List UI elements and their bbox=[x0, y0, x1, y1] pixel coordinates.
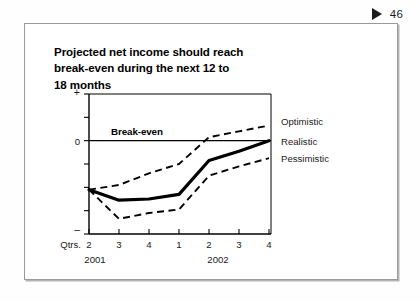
series-line-pessimistic bbox=[89, 158, 269, 219]
y-label-plus: + bbox=[74, 86, 80, 98]
y-axis-ticks bbox=[84, 94, 89, 234]
x-tick-label: 4 bbox=[266, 239, 272, 250]
y-label-zero: 0 bbox=[75, 136, 80, 147]
x-axis-ticks bbox=[89, 229, 269, 234]
legend-label-realistic: Realistic bbox=[281, 136, 317, 147]
series-line-realistic bbox=[89, 141, 269, 200]
x-tick-label: 2 bbox=[206, 239, 211, 250]
break-even-annotation: Break-even bbox=[111, 126, 163, 137]
x-year-label: 2002 bbox=[207, 254, 228, 265]
title-line-2: break-even during the next 12 to bbox=[54, 60, 354, 76]
x-year-label: 2001 bbox=[84, 254, 105, 265]
x-tick-label: 4 bbox=[146, 239, 152, 250]
page-marker: 46 bbox=[372, 5, 403, 23]
legend-label-pessimistic: Pessimistic bbox=[281, 153, 329, 164]
data-series-group bbox=[89, 126, 269, 219]
x-axis-prefix-label: Qtrs. bbox=[60, 239, 81, 250]
page-number: 46 bbox=[390, 8, 403, 20]
x-tick-label: 3 bbox=[116, 239, 121, 250]
slide-canvas: 46 Projected net income should reach bre… bbox=[0, 0, 420, 302]
slide-card: Projected net income should reach break-… bbox=[24, 23, 398, 280]
legend-label-optimistic: Optimistic bbox=[281, 116, 323, 127]
title-line-1: Projected net income should reach bbox=[54, 44, 354, 60]
play-triangle-icon bbox=[372, 8, 382, 20]
y-label-minus: – bbox=[74, 223, 80, 235]
x-tick-label: 3 bbox=[236, 239, 241, 250]
chart-svg: Break-even OptimisticRealisticPessimisti… bbox=[25, 86, 399, 279]
x-tick-label: 1 bbox=[176, 239, 181, 250]
line-chart: Break-even OptimisticRealisticPessimisti… bbox=[25, 86, 399, 279]
x-axis-labels: 2341234Qtrs.20012002 bbox=[60, 239, 272, 265]
chart-legend: OptimisticRealisticPessimistic bbox=[281, 116, 329, 165]
y-axis-labels: +0– bbox=[74, 86, 80, 235]
x-tick-label: 2 bbox=[86, 239, 91, 250]
